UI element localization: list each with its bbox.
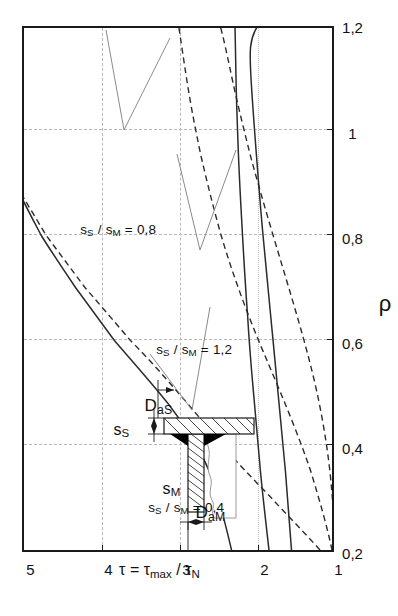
y-axis-title-equals: = bbox=[130, 561, 139, 578]
curve-label-08-tail: = 0,8 bbox=[121, 222, 156, 237]
curve-label-04-sub-m: M bbox=[181, 505, 189, 516]
inset-label-DaM: DaM bbox=[196, 503, 226, 524]
inset-welded-joint-drawing bbox=[24, 26, 334, 550]
xtick-label-0.8: 0,8 bbox=[342, 230, 363, 247]
ytick-label-1: 1 bbox=[334, 561, 342, 578]
plot-area bbox=[22, 26, 334, 552]
curve-label-12-tail: = 1,2 bbox=[197, 342, 232, 357]
y-axis-title-max-sub: max bbox=[150, 568, 172, 580]
inset-label-sS: sS bbox=[113, 421, 129, 440]
curve-label-08-sub-m: M bbox=[113, 227, 121, 238]
inset-dim-sS-arrow-right bbox=[151, 418, 157, 426]
y-axis-title-slash: / bbox=[176, 561, 180, 578]
inset-label-sM-sub: M bbox=[171, 486, 181, 498]
inset-dim-DaS-arrow bbox=[166, 387, 174, 393]
curve-label-12-mid: / s bbox=[170, 342, 189, 357]
xtick-label-0.2: 0,2 bbox=[342, 545, 363, 562]
y-axis-title-n-sub: N bbox=[191, 568, 199, 580]
figure-page: 0,2 0,4 0,6 0,8 1 1,2 ρ 5 4 3 2 1 τ = τm… bbox=[0, 0, 398, 616]
xtick-label-1: 1 bbox=[348, 125, 356, 142]
curve-label-04-mid: / s bbox=[162, 500, 181, 515]
inset-label-sS-base: s bbox=[113, 421, 121, 438]
ytick-label-4: 4 bbox=[104, 561, 112, 578]
y-axis-title-tau: τ bbox=[119, 561, 125, 578]
x-axis-title: ρ bbox=[379, 291, 392, 317]
inset-label-DaS: DaS bbox=[145, 396, 173, 417]
inset-label-sM: sM bbox=[162, 480, 180, 499]
xtick-label-0.6: 0,6 bbox=[342, 335, 363, 352]
inset-label-DaM-sub: aM bbox=[208, 510, 225, 524]
ytick-label-5: 5 bbox=[26, 561, 34, 578]
inset-label-DaS-base: D bbox=[145, 396, 157, 415]
curve-label-04-s: s bbox=[148, 500, 155, 515]
curve-label-12-sub-s: S bbox=[163, 347, 170, 358]
curve-label-08-s: s bbox=[80, 222, 87, 237]
xtick-label-0.4: 0,4 bbox=[342, 440, 363, 457]
curve-label-12-sub-m: M bbox=[189, 347, 197, 358]
inset-label-DaM-base: D bbox=[196, 503, 208, 522]
curve-label-04-sub-s: S bbox=[155, 505, 162, 516]
inset-weld-fillet-top bbox=[170, 434, 188, 446]
curve-label-08-sub-s: S bbox=[87, 227, 94, 238]
curve-label-12-s: s bbox=[156, 342, 163, 357]
curve-label-08: sS / sM = 0,8 bbox=[80, 222, 156, 238]
ytick-label-2: 2 bbox=[260, 561, 268, 578]
curve-label-08-mid: / s bbox=[94, 222, 113, 237]
inset-label-sM-base: s bbox=[162, 480, 170, 497]
inset-label-DaS-sub: aS bbox=[157, 403, 172, 417]
curve-label-12: sS / sM = 1,2 bbox=[156, 342, 232, 358]
inset-label-sS-sub: S bbox=[122, 427, 130, 439]
y-axis-title: τ = τmax / τN bbox=[119, 561, 200, 580]
inset-dim-sS-arrow-left bbox=[151, 426, 157, 434]
xtick-label-1.2: 1,2 bbox=[342, 19, 363, 36]
rotated-chart-canvas: 0,2 0,4 0,6 0,8 1 1,2 ρ 5 4 3 2 1 τ = τm… bbox=[0, 0, 398, 616]
